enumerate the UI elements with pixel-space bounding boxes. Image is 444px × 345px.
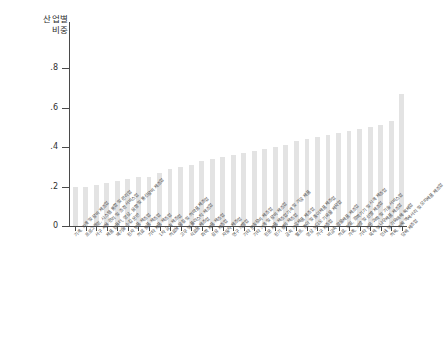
y-axis-title-line-1: 산업별 xyxy=(10,14,68,25)
y-tick-label: .2 xyxy=(18,182,58,191)
bar xyxy=(210,159,215,226)
y-tick-label: 0 xyxy=(18,221,58,230)
y-axis-title: 산업별 비중 xyxy=(10,14,68,36)
y-tick-mark xyxy=(62,147,69,148)
y-tick-label: .6 xyxy=(18,103,58,112)
y-tick-mark xyxy=(62,68,69,69)
bar xyxy=(241,153,246,226)
y-tick-label: .4 xyxy=(18,142,58,151)
bar xyxy=(231,155,236,226)
y-tick-label: .8 xyxy=(18,63,58,72)
bar xyxy=(336,133,341,226)
bar xyxy=(252,151,257,226)
y-tick-mark xyxy=(62,108,69,109)
bar xyxy=(73,187,78,227)
x-axis-labels: 기계, 기계 및 장비 제조업프로그래밍, 시스템 통합 및 관리업서구 사용 … xyxy=(0,232,422,344)
y-axis-title-line-2: 비중 xyxy=(10,25,68,36)
y-tick-mark xyxy=(62,226,69,227)
bars-area xyxy=(70,22,407,226)
y-tick-mark xyxy=(62,187,69,188)
